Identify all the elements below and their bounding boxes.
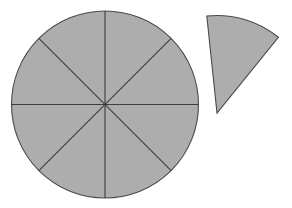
fraction-circle-figure	[0, 0, 292, 208]
figure-canvas	[0, 0, 292, 208]
divided-circle-group	[12, 11, 199, 198]
